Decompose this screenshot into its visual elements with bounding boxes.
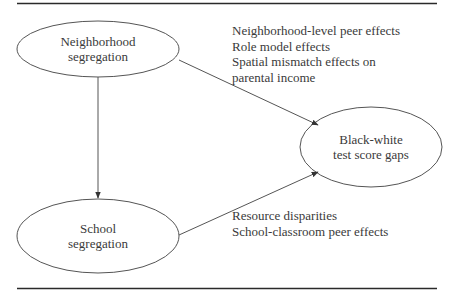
annotation-school-mechanisms: Resource disparities School-classroom pe… (232, 208, 388, 239)
node-label-test-score-gaps: Black-white test score gaps (311, 132, 431, 162)
node-label-line: Black-white (311, 132, 431, 147)
annotation-line: parental income (232, 70, 400, 86)
annotation-line: Spatial mismatch effects on (232, 54, 400, 70)
node-label-line: segregation (38, 49, 158, 64)
annotation-neighborhood-mechanisms: Neighborhood-level peer effects Role mod… (232, 23, 400, 85)
node-label-line: Neighborhood (38, 34, 158, 49)
annotation-line: Resource disparities (232, 208, 388, 224)
node-label-line: segregation (38, 236, 158, 251)
node-label-line: School (38, 221, 158, 236)
annotation-line: School-classroom peer effects (232, 224, 388, 240)
node-label-neighborhood: Neighborhood segregation (38, 34, 158, 64)
node-label-school: School segregation (38, 221, 158, 251)
node-label-line: test score gaps (311, 147, 431, 162)
annotation-line: Neighborhood-level peer effects (232, 23, 400, 39)
annotation-line: Role model effects (232, 39, 400, 55)
